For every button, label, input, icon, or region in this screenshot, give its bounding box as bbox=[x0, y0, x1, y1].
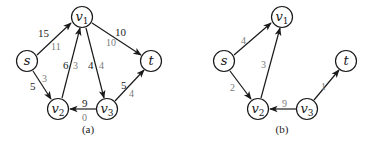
node-a-v3: v3 bbox=[97, 99, 118, 120]
capacity-a-s-v1: 15 bbox=[38, 27, 50, 39]
flow-a-v2-v1: 3 bbox=[73, 60, 78, 71]
flow-a-v3-v2: 0 bbox=[82, 112, 87, 123]
flow-network-figure: 15 11 5 3 6 3 4 4 10 10 9 0 5 4 s v1 t v… bbox=[0, 0, 371, 149]
caption-b: (b) bbox=[276, 123, 289, 136]
capacity-a-v1-v3: 4 bbox=[88, 59, 94, 71]
svg-text:s: s bbox=[221, 53, 228, 68]
capacity-a-v3-t: 5 bbox=[121, 79, 127, 91]
graph-a: 15 11 5 3 6 3 4 4 10 10 9 0 5 4 s v1 t v… bbox=[17, 7, 162, 137]
capacity-a-v1-t: 10 bbox=[115, 26, 127, 38]
svg-text:s: s bbox=[24, 53, 31, 68]
node-b-v2: v2 bbox=[248, 99, 269, 120]
node-a-s: s bbox=[17, 51, 38, 72]
node-b-t: t bbox=[336, 51, 357, 72]
node-a-v2: v2 bbox=[48, 99, 69, 120]
node-b-v1: v1 bbox=[272, 7, 293, 28]
weight-b-s-v1: 4 bbox=[241, 35, 246, 46]
edge-b-s-v1 bbox=[234, 23, 271, 55]
weight-b-v3-t: 1 bbox=[321, 81, 326, 92]
capacity-a-v2-v1: 6 bbox=[63, 59, 69, 71]
node-a-v1: v1 bbox=[72, 7, 93, 28]
flow-a-s-v2: 3 bbox=[42, 73, 47, 84]
svg-text:t: t bbox=[148, 53, 154, 68]
capacity-a-v3-v2: 9 bbox=[82, 97, 88, 109]
weight-b-s-v2: 2 bbox=[230, 82, 235, 93]
flow-a-v1-v3: 4 bbox=[99, 60, 104, 71]
node-b-s: s bbox=[214, 51, 235, 72]
capacity-a-s-v2: 5 bbox=[30, 80, 36, 92]
flow-a-v3-t: 4 bbox=[129, 88, 134, 99]
svg-text:t: t bbox=[343, 53, 349, 68]
edge-b-v3-t bbox=[314, 70, 339, 100]
graph-b: 4 2 3 9 1 s v1 t v2 v3 (b) bbox=[214, 7, 357, 137]
node-a-t: t bbox=[141, 51, 162, 72]
flow-a-v1-t: 10 bbox=[106, 37, 116, 48]
weight-b-v3-v2: 9 bbox=[282, 98, 287, 109]
weight-b-v2-v1: 3 bbox=[261, 59, 266, 70]
node-b-v3: v3 bbox=[297, 99, 318, 120]
caption-a: (a) bbox=[82, 123, 95, 136]
flow-a-s-v1: 11 bbox=[51, 41, 61, 52]
